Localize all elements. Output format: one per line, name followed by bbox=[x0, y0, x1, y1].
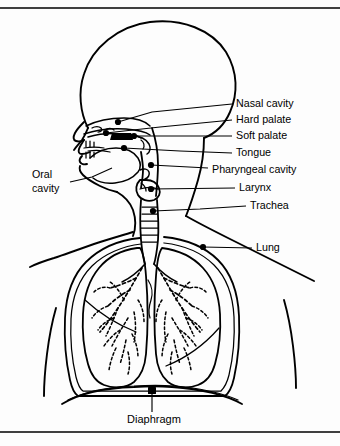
anatomy-diagram: Nasal cavity Hard palate Soft palate Ton… bbox=[0, 0, 340, 446]
leader-trachea bbox=[153, 206, 246, 211]
dot-larynx bbox=[148, 186, 154, 192]
leader-pharyngeal-cavity bbox=[151, 165, 208, 168]
label-soft-palate: Soft palate bbox=[236, 129, 287, 141]
leader-hard-palate bbox=[106, 120, 232, 133]
label-pharyngeal-cavity: Pharyngeal cavity bbox=[212, 163, 297, 175]
label-diaphragm: Diaphragm bbox=[127, 413, 181, 425]
label-trachea: Trachea bbox=[250, 199, 289, 211]
left-arm-contour bbox=[44, 308, 56, 396]
label-hard-palate: Hard palate bbox=[236, 113, 291, 125]
dot-pharyngeal-cavity bbox=[148, 162, 154, 168]
label-lung: Lung bbox=[256, 241, 280, 253]
neck-front-contour bbox=[117, 192, 135, 236]
dot-lung bbox=[200, 244, 206, 250]
dot-tongue bbox=[121, 145, 127, 151]
tongue-outline bbox=[90, 148, 140, 183]
label-layer: Nasal cavity Hard palate Soft palate Ton… bbox=[32, 97, 297, 425]
dot-soft-palate bbox=[131, 133, 137, 139]
label-tongue: Tongue bbox=[236, 146, 271, 158]
dot-trachea bbox=[150, 208, 156, 214]
leader-larynx bbox=[151, 188, 235, 189]
epiglottis-outline bbox=[140, 169, 149, 179]
dot-hard-palate bbox=[103, 130, 109, 136]
label-nasal-cavity: Nasal cavity bbox=[236, 97, 294, 109]
neck-back-contour bbox=[186, 138, 204, 216]
upper-teeth bbox=[86, 141, 94, 147]
dot-nasal-cavity bbox=[115, 119, 121, 125]
pleural-lining bbox=[71, 243, 235, 391]
leader-oral-cavity bbox=[70, 168, 112, 182]
mediastinum-notch bbox=[148, 280, 152, 318]
label-oral-cavity-line-1: Oral bbox=[32, 168, 52, 180]
right-arm-contour bbox=[284, 300, 296, 388]
label-larynx: Larynx bbox=[239, 181, 272, 193]
label-oral-cavity-line-2: cavity bbox=[32, 182, 60, 194]
diaphragm-central-marker bbox=[148, 387, 156, 394]
bronchi-bifurcation bbox=[122, 264, 177, 282]
uvula-outline bbox=[141, 140, 144, 149]
palate-solid-block bbox=[110, 133, 133, 140]
respiratory-system-figure: Nasal cavity Hard palate Soft palate Ton… bbox=[0, 0, 340, 446]
left-bronchial-tree bbox=[92, 268, 144, 374]
jaw-line bbox=[84, 147, 104, 148]
